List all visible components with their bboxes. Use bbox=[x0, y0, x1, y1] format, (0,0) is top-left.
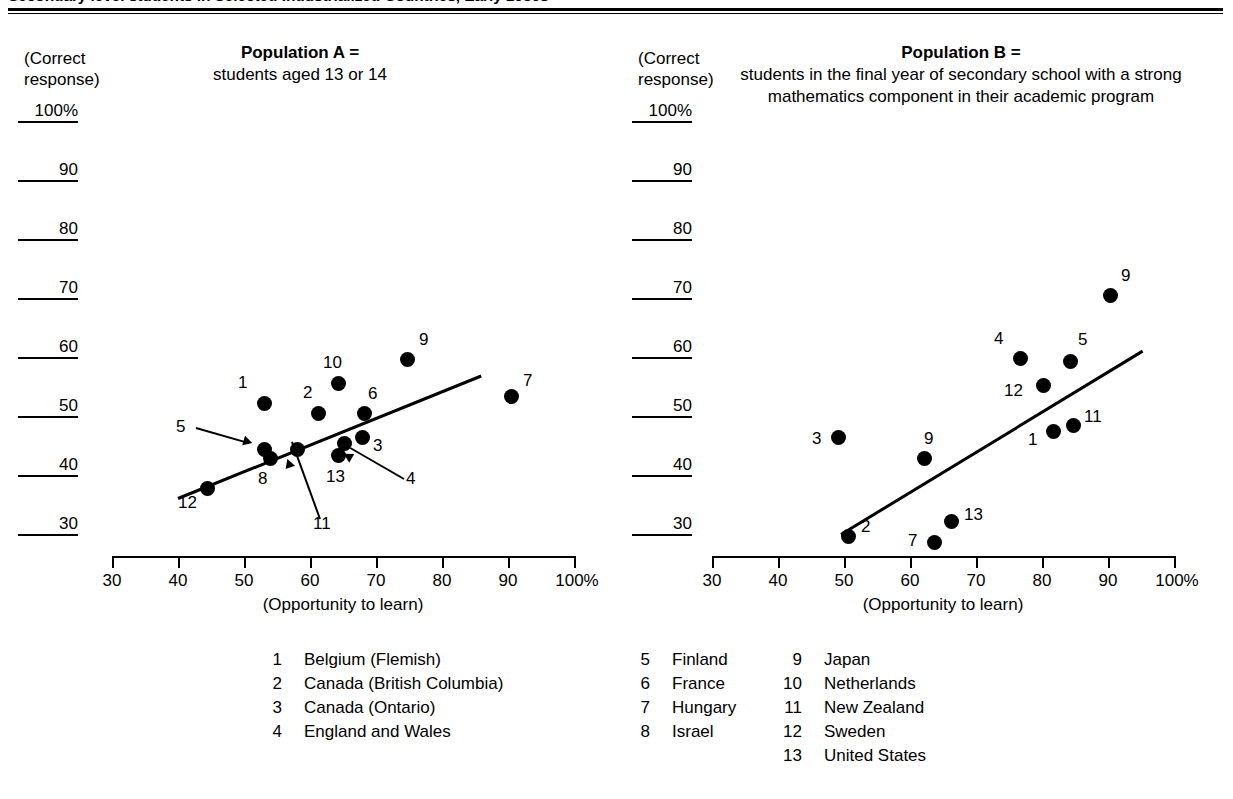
data-label-a-13: 13 bbox=[326, 468, 345, 485]
data-point-a-3[interactable] bbox=[355, 430, 370, 445]
legend-country-name: England and Wales bbox=[304, 720, 451, 744]
legend-number: 11 bbox=[772, 696, 802, 720]
legend-country-name: Hungary bbox=[672, 696, 736, 720]
data-label-a-11: 11 bbox=[313, 515, 331, 532]
legend-number: 4 bbox=[252, 720, 282, 744]
x-tick-label-a-100: 100% bbox=[546, 572, 608, 589]
x-tick-label-b-30: 30 bbox=[687, 572, 737, 589]
data-label-a-7: 7 bbox=[523, 372, 532, 389]
legend-item: 5 Finland bbox=[620, 648, 736, 672]
x-tick-a-90 bbox=[508, 556, 510, 568]
x-tick-label-b-40: 40 bbox=[753, 572, 803, 589]
legend-item: 6 France bbox=[620, 672, 736, 696]
data-point-a-7[interactable] bbox=[504, 389, 519, 404]
panel-population-a: (Correct response) Population A = studen… bbox=[0, 0, 616, 640]
x-tick-a-70 bbox=[376, 556, 378, 568]
x-tick-label-a-30: 30 bbox=[87, 572, 137, 589]
legend-country-name: Finland bbox=[672, 648, 728, 672]
legend-country-name: Canada (British Columbia) bbox=[304, 672, 503, 696]
data-label-b-2: 2 bbox=[861, 518, 870, 535]
data-point-a-10[interactable] bbox=[331, 376, 346, 391]
data-point-b-11[interactable] bbox=[1066, 418, 1081, 433]
data-point-a-9[interactable] bbox=[400, 352, 415, 367]
data-point-b-4[interactable] bbox=[1013, 351, 1028, 366]
data-label-a-8: 8 bbox=[258, 470, 267, 487]
x-tick-label-a-70: 70 bbox=[351, 572, 401, 589]
x-tick-a-30 bbox=[112, 556, 114, 568]
panel-population-b: (Correct response) Population B = studen… bbox=[616, 0, 1233, 640]
data-point-b-9[interactable] bbox=[1103, 288, 1118, 303]
data-label-a-10: 10 bbox=[323, 354, 342, 371]
data-label-b-5: 5 bbox=[1078, 331, 1087, 348]
data-point-a-1[interactable] bbox=[257, 396, 272, 411]
data-label-b-4: 4 bbox=[994, 330, 1003, 347]
data-point-b-12[interactable] bbox=[1036, 378, 1051, 393]
data-point-b-2[interactable] bbox=[841, 529, 856, 544]
legend-country-name: Belgium (Flemish) bbox=[304, 648, 441, 672]
x-tick-label-a-80: 80 bbox=[417, 572, 467, 589]
x-tick-a-80 bbox=[442, 556, 444, 568]
data-point-b-5[interactable] bbox=[1063, 354, 1078, 369]
legend-number: 5 bbox=[620, 648, 650, 672]
x-tick-a-100 bbox=[574, 556, 576, 568]
legend-item: 7 Hungary bbox=[620, 696, 736, 720]
data-point-a-2[interactable] bbox=[311, 406, 326, 421]
data-label-b-1: 1 bbox=[1028, 431, 1037, 448]
figure-root: Secondary level students in Selected Ind… bbox=[0, 0, 1233, 799]
legend-number: 3 bbox=[252, 696, 282, 720]
plot-area-a: 12 5 8 1 11 2 13 4 10 6 bbox=[0, 0, 616, 560]
legend-item: 10 Netherlands bbox=[772, 672, 926, 696]
data-point-a-12[interactable] bbox=[200, 481, 215, 496]
leader-a-5 bbox=[196, 427, 249, 444]
x-tick-a-50 bbox=[244, 556, 246, 568]
trend-line-b bbox=[840, 350, 1143, 536]
x-tick-b-80 bbox=[1042, 556, 1044, 568]
legend-item: 12 Sweden bbox=[772, 720, 926, 744]
x-tick-b-60 bbox=[910, 556, 912, 568]
legend-country-name: Israel bbox=[672, 720, 714, 744]
x-axis-a bbox=[112, 556, 574, 558]
legend-number: 8 bbox=[620, 720, 650, 744]
legend-item: 3 Canada (Ontario) bbox=[252, 696, 503, 720]
data-point-b-3[interactable] bbox=[831, 430, 846, 445]
x-tick-b-100 bbox=[1174, 556, 1176, 568]
legend-column-1: 1 Belgium (Flemish) 2 Canada (British Co… bbox=[252, 648, 503, 744]
data-label-b-8: 9 bbox=[924, 430, 933, 447]
country-legend: 1 Belgium (Flemish) 2 Canada (British Co… bbox=[0, 648, 1233, 788]
legend-column-2: 5 Finland 6 France 7 Hungary 8 Israel bbox=[620, 648, 736, 744]
x-axis-b bbox=[712, 556, 1174, 558]
leader-a-11 bbox=[291, 442, 321, 520]
x-tick-label-b-60: 60 bbox=[885, 572, 935, 589]
arrow-a-11 bbox=[283, 457, 295, 469]
legend-item: 8 Israel bbox=[620, 720, 736, 744]
x-axis-caption-b: (Opportunity to learn) bbox=[793, 596, 1093, 613]
arrow-a-5 bbox=[242, 436, 253, 448]
data-label-a-3: 3 bbox=[373, 437, 382, 454]
legend-number: 2 bbox=[252, 672, 282, 696]
data-point-b-1[interactable] bbox=[1046, 424, 1061, 439]
data-label-a-12: 12 bbox=[178, 494, 197, 511]
legend-country-name: United States bbox=[824, 744, 926, 768]
data-point-b-8[interactable] bbox=[917, 451, 932, 466]
data-label-a-5: 5 bbox=[176, 418, 185, 435]
data-point-b-13[interactable] bbox=[944, 514, 959, 529]
x-tick-b-30 bbox=[712, 556, 714, 568]
legend-country-name: France bbox=[672, 672, 725, 696]
legend-number: 1 bbox=[252, 648, 282, 672]
x-tick-label-b-90: 90 bbox=[1083, 572, 1133, 589]
legend-number: 10 bbox=[772, 672, 802, 696]
legend-item: 1 Belgium (Flemish) bbox=[252, 648, 503, 672]
data-label-b-12: 12 bbox=[1004, 382, 1023, 399]
data-point-b-7[interactable] bbox=[927, 535, 942, 550]
x-tick-a-60 bbox=[310, 556, 312, 568]
data-point-a-8[interactable] bbox=[263, 451, 278, 466]
legend-country-name: Canada (Ontario) bbox=[304, 696, 435, 720]
data-label-b-9: 9 bbox=[1121, 267, 1130, 284]
legend-column-3: 9 Japan 10 Netherlands 11 New Zealand 12… bbox=[772, 648, 926, 768]
data-label-b-13: 13 bbox=[964, 506, 983, 523]
x-tick-label-a-40: 40 bbox=[153, 572, 203, 589]
legend-number: 6 bbox=[620, 672, 650, 696]
x-tick-b-90 bbox=[1108, 556, 1110, 568]
x-tick-b-50 bbox=[844, 556, 846, 568]
data-point-a-6[interactable] bbox=[357, 406, 372, 421]
